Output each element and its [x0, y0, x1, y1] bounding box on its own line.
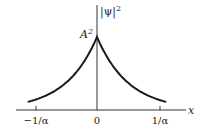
- x-tick-label-pos: 1/α: [152, 115, 169, 126]
- x-tick-label-neg: −1/α: [24, 115, 49, 126]
- peak-label: A2: [79, 27, 93, 41]
- x-axis-label: x: [188, 104, 195, 117]
- x-tick-label-zero: 0: [94, 115, 100, 126]
- chart: |ψ|2 A2 x −1/α 0 1/α: [0, 0, 204, 131]
- y-axis-label: |ψ|2: [100, 4, 121, 19]
